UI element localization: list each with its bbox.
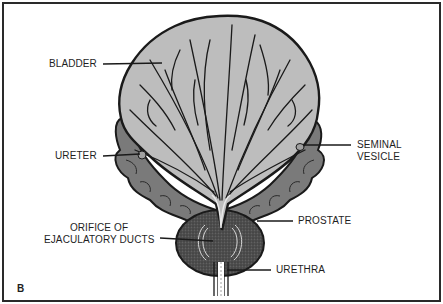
label-seminal-vesicle-line1: SEMINAL	[357, 139, 402, 150]
label-prostate: PROSTATE	[298, 215, 351, 226]
leader-bladder	[103, 63, 162, 64]
label-orifice-line1: ORIFICE OF	[44, 222, 154, 233]
label-ureter: URETER	[55, 150, 97, 161]
label-orifice-line2: EJACULATORY DUCTS	[44, 234, 154, 245]
label-bladder: BLADDER	[49, 58, 97, 69]
label-urethra: URETHRA	[276, 264, 325, 275]
panel-letter: B	[17, 283, 24, 294]
label-seminal-vesicle-line2: VESICLE	[357, 151, 400, 162]
